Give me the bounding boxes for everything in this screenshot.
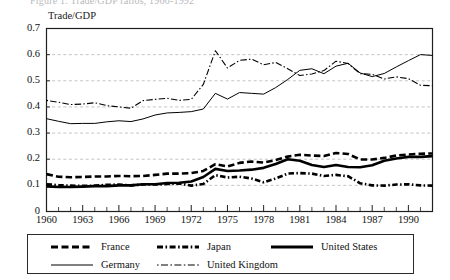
legend-row-2: Germany United Kingdom xyxy=(28,255,413,274)
figure-container: Figure 1. Trade/GDP ratios, 1960-1992 Tr… xyxy=(0,0,450,280)
legend-label-germany: Germany xyxy=(101,259,140,270)
legend-label-united-kingdom: United Kingdom xyxy=(207,259,278,270)
x-axis-tick-label: 1978 xyxy=(244,214,284,225)
legend-swatch-france xyxy=(50,240,94,254)
x-axis-tick-label: 1972 xyxy=(171,214,211,225)
legend-entry-france: France xyxy=(50,237,130,256)
x-axis-tick-label: 1990 xyxy=(388,214,428,225)
legend-entry-united-kingdom: United Kingdom xyxy=(156,255,278,274)
x-axis-tick-label: 1981 xyxy=(280,214,320,225)
x-axis-tick-label: 1987 xyxy=(352,214,392,225)
y-axis-tick-label: 0.1 xyxy=(14,178,40,189)
x-axis-tick-label: 1963 xyxy=(63,214,103,225)
gridlines xyxy=(47,55,433,186)
x-axis-tick-label: 1975 xyxy=(207,214,247,225)
legend-entry-united-states: United States xyxy=(270,237,377,256)
y-axis-tick-label: 0.5 xyxy=(14,74,40,85)
series-line-japan xyxy=(47,173,433,186)
axis-ticks xyxy=(47,29,433,212)
legend-label-france: France xyxy=(101,241,130,252)
x-axis-tick-label: 1960 xyxy=(27,214,67,225)
series-line-united-kingdom xyxy=(47,51,433,109)
series-line-united-states xyxy=(47,156,433,187)
y-axis-tick-label: 0.6 xyxy=(14,48,40,59)
legend-label-united-states: United States xyxy=(321,241,377,252)
y-axis-tick-label: 0.2 xyxy=(14,152,40,163)
legend-entry-japan: Japan xyxy=(156,237,231,256)
legend-swatch-united-states xyxy=(270,240,314,254)
x-axis-tick-label: 1969 xyxy=(135,214,175,225)
y-axis-tick-label: 0.4 xyxy=(14,100,40,111)
legend-label-japan: Japan xyxy=(207,241,231,252)
chart-legend: France Japan United States Germany xyxy=(27,234,414,274)
series-line-germany xyxy=(47,55,433,124)
data-series-layer xyxy=(47,51,433,187)
plot-frame xyxy=(47,29,433,212)
y-axis-tick-label: 0.7 xyxy=(14,22,40,33)
legend-swatch-united-kingdom xyxy=(156,258,200,272)
y-axis-tick-label: 0.3 xyxy=(14,126,40,137)
legend-entry-germany: Germany xyxy=(50,255,140,274)
x-axis-tick-label: 1966 xyxy=(99,214,139,225)
x-axis-tick-label: 1984 xyxy=(316,214,356,225)
legend-swatch-germany xyxy=(50,258,94,272)
legend-swatch-japan xyxy=(156,240,200,254)
legend-row-1: France Japan United States xyxy=(28,237,413,256)
